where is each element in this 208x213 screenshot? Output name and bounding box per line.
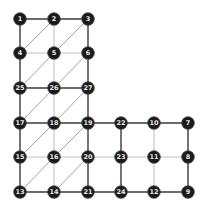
edge-26-6 xyxy=(54,53,88,88)
edge-16-19 xyxy=(54,123,88,157)
node-label: 27 xyxy=(83,84,92,92)
node-label: 6 xyxy=(86,49,91,57)
node-5: 5 xyxy=(48,47,61,60)
node-4: 4 xyxy=(14,47,27,60)
node-12: 12 xyxy=(148,186,161,199)
node-23: 23 xyxy=(115,151,128,164)
node-14: 14 xyxy=(48,186,61,199)
edge-13-16 xyxy=(20,157,54,192)
edge-15-18 xyxy=(20,123,54,157)
edge-5-3 xyxy=(54,19,88,53)
node-label: 23 xyxy=(116,153,125,161)
node-label: 13 xyxy=(15,188,24,196)
node-26: 26 xyxy=(48,82,61,95)
node-label: 11 xyxy=(149,153,159,161)
node-label: 20 xyxy=(83,153,93,161)
edge-25-5 xyxy=(20,53,54,88)
edge-14-20 xyxy=(54,157,88,192)
node-label: 2 xyxy=(52,15,57,23)
node-17: 17 xyxy=(14,117,27,130)
node-8: 8 xyxy=(182,151,195,164)
node-1: 1 xyxy=(14,13,27,26)
edge-18-27 xyxy=(54,88,88,123)
node-label: 22 xyxy=(116,119,125,127)
node-18: 18 xyxy=(48,117,61,130)
node-13: 13 xyxy=(14,186,27,199)
node-19: 19 xyxy=(82,117,95,130)
node-label: 24 xyxy=(116,188,126,196)
node-label: 21 xyxy=(83,188,93,196)
node-label: 10 xyxy=(149,119,159,127)
node-label: 25 xyxy=(15,84,25,92)
node-label: 16 xyxy=(49,153,59,161)
edge-17-26 xyxy=(20,88,54,123)
node-9: 9 xyxy=(182,186,195,199)
node-25: 25 xyxy=(14,82,27,95)
node-label: 4 xyxy=(18,49,23,57)
node-16: 16 xyxy=(48,151,61,164)
node-15: 15 xyxy=(14,151,27,164)
edge-4-2 xyxy=(20,19,54,53)
node-label: 9 xyxy=(186,188,191,196)
edges-layer xyxy=(20,19,188,192)
node-11: 11 xyxy=(148,151,161,164)
node-label: 8 xyxy=(186,153,191,161)
node-label: 26 xyxy=(49,84,59,92)
node-label: 1 xyxy=(18,15,23,23)
node-2: 2 xyxy=(48,13,61,26)
node-label: 5 xyxy=(52,49,57,57)
node-27: 27 xyxy=(82,82,95,95)
node-label: 14 xyxy=(49,188,59,196)
node-10: 10 xyxy=(148,117,161,130)
node-22: 22 xyxy=(115,117,128,130)
node-label: 12 xyxy=(149,188,158,196)
node-label: 19 xyxy=(83,119,93,127)
node-label: 3 xyxy=(86,15,91,23)
node-label: 7 xyxy=(186,119,191,127)
node-21: 21 xyxy=(82,186,95,199)
node-label: 15 xyxy=(15,153,25,161)
node-24: 24 xyxy=(115,186,128,199)
node-3: 3 xyxy=(82,13,95,26)
node-20: 20 xyxy=(82,151,95,164)
node-label: 17 xyxy=(15,119,24,127)
grid-graph-diagram: 1234562526271718192210715162023118131421… xyxy=(0,0,208,213)
node-7: 7 xyxy=(182,117,195,130)
node-6: 6 xyxy=(82,47,95,60)
node-label: 18 xyxy=(49,119,59,127)
